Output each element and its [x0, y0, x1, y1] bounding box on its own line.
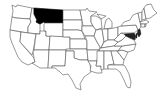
state-delaware — [136, 33, 137, 38]
state-north-dakota — [63, 10, 82, 20]
state-rhode-island — [145, 24, 146, 27]
state-florida — [108, 65, 131, 88]
state-wyoming — [44, 23, 63, 37]
state-washington — [12, 5, 32, 19]
state-maine — [144, 4, 157, 19]
state-south-dakota — [63, 20, 82, 31]
state-arizona — [32, 50, 49, 68]
state-kansas — [70, 39, 87, 49]
state-connecticut — [141, 24, 145, 27]
us-map — [0, 0, 167, 95]
state-new-mexico — [48, 50, 66, 68]
state-colorado — [49, 36, 70, 50]
state-montana — [34, 8, 63, 24]
